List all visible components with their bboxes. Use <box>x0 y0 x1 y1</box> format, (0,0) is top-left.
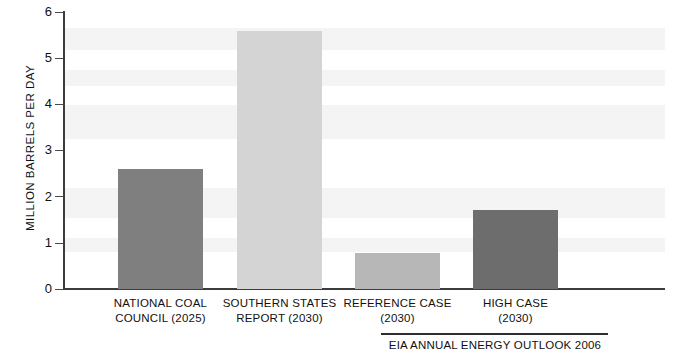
bar-national-coal-council <box>118 169 203 289</box>
x-category-label-line1: HIGH CASE <box>483 297 548 309</box>
x-category-label-line1: REFERENCE CASE <box>343 297 451 309</box>
x-category-label-line1: SOUTHERN STATES <box>223 297 337 309</box>
bar-reference-case <box>355 253 440 289</box>
bar-southern-states-report <box>237 31 322 289</box>
group-annotation-label: EIA ANNUAL ENERGY OUTLOOK 2006 <box>355 338 635 352</box>
x-category-label-line1: NATIONAL COAL <box>114 297 207 309</box>
x-category-label-high-case: HIGH CASE (2030) <box>443 296 588 325</box>
x-category-label-line2: (2030) <box>443 311 588 326</box>
bar-high-case <box>473 210 558 289</box>
bar-chart-figure: MILLION BARRELS PER DAY 6 5 4 3 2 1 0 NA… <box>0 0 673 357</box>
group-annotation-rule <box>381 333 608 335</box>
